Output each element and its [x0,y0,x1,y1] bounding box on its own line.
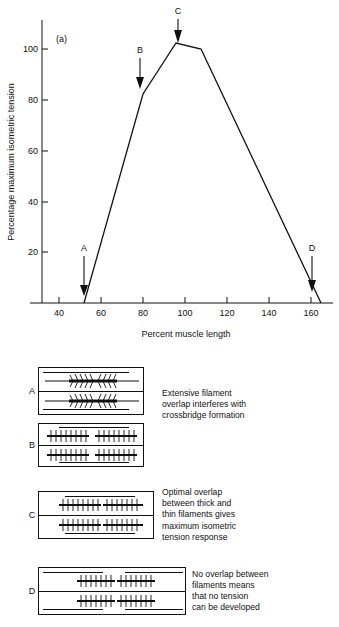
panel-c-filaments [39,492,155,540]
figure-page: 100 80 60 40 20 40 60 80 100 120 140 160 [0,0,339,627]
panel-d-caption: No overlap between filaments means that … [192,569,268,614]
sarcomere-panel-c: C [26,487,236,543]
panel-b-sarcomere-box [38,423,144,467]
panel-b-letter: B [26,440,38,450]
x-tick-label-100: 100 [177,308,192,318]
x-axis-ticks [59,297,311,303]
x-tick-label-140: 140 [261,308,276,318]
panel-d-sarcomere-box [38,567,186,615]
x-tick-label-60: 60 [96,308,106,318]
marker-c-label: C [175,6,182,16]
y-tick-label-100: 100 [23,44,38,54]
panel-a-sarcomere-box [38,367,144,415]
x-axis-title: Percent muscle length [141,329,230,339]
marker-a-label: A [81,243,87,253]
marker-d-label: D [309,243,316,253]
marker-b-label: B [137,45,143,55]
panel-c-caption: Optimal overlap between thick and thin f… [162,487,236,543]
x-tick-label-40: 40 [54,308,64,318]
chart-svg: 100 80 60 40 20 40 60 80 100 120 140 160 [0,0,339,345]
panel-d-letter: D [26,586,38,596]
panel-a-caption: Extensive filament overlap interferes wi… [162,388,246,422]
annotation-marker-d: D [308,243,316,292]
sarcomere-panel-d: D [26,567,268,615]
panel-b-filaments [39,424,145,468]
panel-d-filaments [39,568,187,616]
y-axis-ticks [42,49,48,252]
x-tick-label-80: 80 [138,308,148,318]
x-tick-label-120: 120 [219,308,234,318]
y-tick-label-80: 80 [28,95,38,105]
x-tick-label-160: 160 [303,308,318,318]
tension-curve [84,43,321,303]
marker-b-arrowhead [136,77,144,89]
panel-c-letter: C [26,510,38,520]
sarcomere-panel-a: A [26,360,246,422]
y-tick-label-20: 20 [28,247,38,257]
panel-a-letter: A [26,386,38,396]
annotation-marker-b: B [136,45,144,89]
panel-a-filaments [39,368,145,416]
y-axis-title: Percentage maximum isometric tension [6,83,16,241]
sarcomere-panel-b: B [26,423,152,467]
y-tick-label-60: 60 [28,146,38,156]
y-tick-label-40: 40 [28,197,38,207]
annotation-marker-a: A [80,243,88,296]
marker-c-arrowhead [174,30,182,43]
annotation-marker-c: C [174,6,182,43]
chart-panel-tag: (a) [56,34,67,44]
panel-c-sarcomere-box [38,491,154,539]
length-tension-chart: 100 80 60 40 20 40 60 80 100 120 140 160 [0,0,339,345]
